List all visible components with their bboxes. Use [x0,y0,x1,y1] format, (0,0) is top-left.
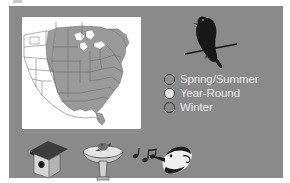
bird-eye-dot [170,155,173,158]
map-inset-detail [30,37,39,44]
perched-bird-silhouette [181,10,243,70]
birdbath-icon[interactable] [79,139,127,181]
bird-eye [202,19,204,21]
music-notes [132,148,156,163]
birdbath-base [97,177,109,180]
legend-swatch-spring-summer [164,74,175,85]
crop-artifact [13,0,22,3]
birdbath-pedestal [99,161,107,177]
bird-head [193,17,207,27]
bird-beak [147,155,165,162]
legend-swatch-year-round [164,88,175,99]
bird-song-icon[interactable] [131,142,193,180]
legend-item-year-round[interactable]: Year-Round [164,86,289,100]
legend-swatch-winter [164,102,175,113]
range-map-graphic [22,17,141,129]
map-legend: Spring/Summer Year-Round Winter [164,72,289,114]
legend-item-winter[interactable]: Winter [164,100,289,114]
birdhouse-hole [38,161,44,168]
content-panel: Spring/Summer Year-Round Winter [9,6,283,178]
birdhouse-icon[interactable] [27,137,71,181]
legend-label-year-round: Year-Round [180,87,240,100]
range-map [22,17,141,129]
legend-label-winter: Winter [180,101,213,114]
legend-label-spring-summer: Spring/Summer [180,73,259,86]
infographic-stage: Spring/Summer Year-Round Winter [0,0,290,183]
legend-item-spring-summer[interactable]: Spring/Summer [164,72,289,86]
